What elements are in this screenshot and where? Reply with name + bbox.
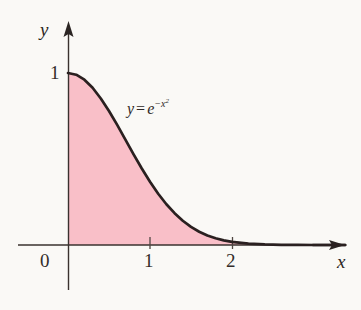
equation-exponent: −x2: [154, 98, 169, 109]
plot-canvas: [0, 0, 361, 310]
y-tick-label-1: 1: [50, 63, 60, 82]
origin-tick-label: 0: [40, 251, 50, 270]
shaded-area-under-curve: [68, 73, 345, 245]
equation-exponent-text: −x: [154, 98, 165, 109]
figure-exponential-area-plot: y x 0 1 2 1 y=e−x2: [0, 0, 361, 310]
x-tick-label-1: 1: [144, 251, 154, 270]
x-axis-label: x: [337, 252, 345, 271]
curve-equation-annotation: y=e−x2: [127, 98, 169, 117]
equation-exponent-power: 2: [165, 97, 169, 105]
equation-equals-sign: =: [134, 100, 147, 117]
y-axis-label: y: [40, 20, 48, 39]
x-tick-label-2: 2: [226, 251, 236, 270]
